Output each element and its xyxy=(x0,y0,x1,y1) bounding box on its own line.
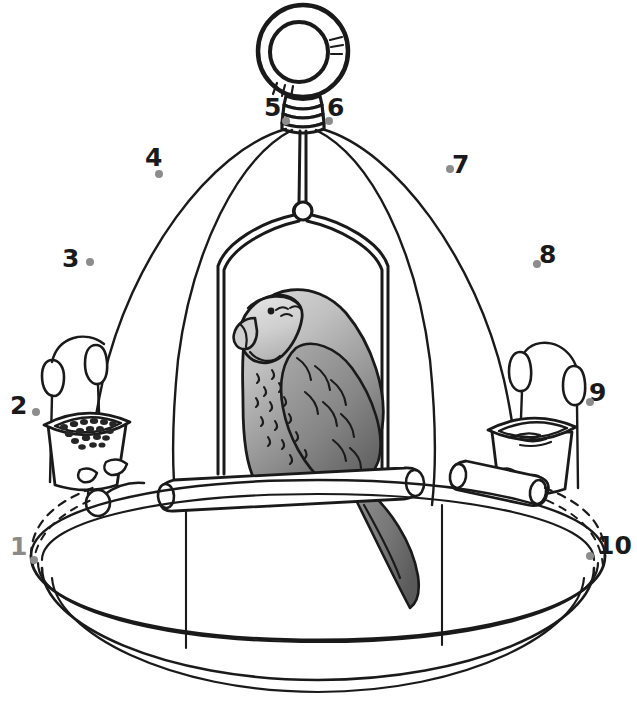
callout-label-10: 10 xyxy=(597,533,632,558)
callout-label-8: 8 xyxy=(539,242,556,267)
callout-dot-6 xyxy=(325,117,333,125)
callout-label-4: 4 xyxy=(145,145,162,170)
parrot-eye xyxy=(268,308,275,315)
callout-label-2: 2 xyxy=(10,393,27,418)
callout-dot-4 xyxy=(155,170,163,178)
cage-base-tray xyxy=(31,480,605,692)
callout-dot-8 xyxy=(533,260,541,268)
hanging-collar xyxy=(282,96,324,133)
grey-parrot xyxy=(234,290,419,608)
callout-label-5: 5 xyxy=(264,95,281,120)
callout-dot-1 xyxy=(30,556,38,564)
wooden-perch-upper xyxy=(157,468,424,511)
seed-cup xyxy=(42,337,130,490)
callout-dot-5 xyxy=(282,117,290,125)
bird-cage-illustration xyxy=(0,0,637,718)
callout-dot-3 xyxy=(86,258,94,266)
figure-canvas: 1 2 3 4 5 6 7 8 9 10 xyxy=(0,0,637,718)
callout-dot-10 xyxy=(586,552,594,560)
callout-dot-9 xyxy=(586,398,594,406)
callout-dot-7 xyxy=(446,165,454,173)
callout-label-3: 3 xyxy=(62,246,79,271)
callout-label-1: 1 xyxy=(10,534,27,559)
callout-dot-2 xyxy=(32,408,40,416)
swing-hook xyxy=(293,202,312,220)
callout-label-7: 7 xyxy=(452,152,469,177)
hanging-ring xyxy=(258,5,348,97)
